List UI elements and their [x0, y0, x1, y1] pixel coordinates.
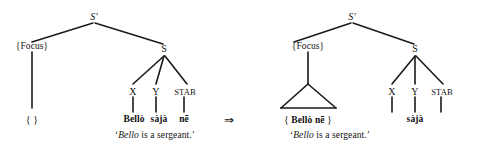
left-node-s: S	[161, 44, 167, 54]
right-focus-open-brace: {	[284, 114, 289, 125]
left-branch-sbar-s	[95, 23, 163, 44]
right-branch-s-stab	[416, 56, 443, 84]
left-branch-s-x	[133, 56, 164, 84]
right-gloss-rest: is a sergeant.	[314, 130, 367, 140]
left-branch-s-y	[156, 56, 164, 84]
left-terminal-x: Bellò	[123, 115, 144, 125]
left-terminal-focus-empty: { }	[26, 115, 38, 125]
right-terminal-y: sàjà	[407, 115, 424, 125]
left-node-focus: {Focus}	[16, 42, 49, 52]
left-gloss: ‘Bello is a sergeant.’	[115, 131, 195, 141]
derivation-arrow-icon: ⇒	[224, 114, 234, 126]
right-triangle-left-edge	[281, 84, 308, 108]
right-focus-phrase: Bellò nē	[291, 115, 324, 125]
right-focus-close-brace: }	[327, 114, 332, 125]
left-terminal-stab: nē	[179, 115, 189, 125]
left-branch-s-stab	[165, 56, 187, 84]
right-gloss: ‘Bello is a sergeant.’	[290, 131, 370, 141]
right-node-s: S	[412, 44, 418, 54]
right-node-sbar: S′	[348, 12, 355, 22]
left-gloss-rest: is a sergeant.	[139, 130, 192, 140]
right-branch-sbar-focus	[294, 23, 351, 42]
left-node-y: Y	[152, 87, 159, 97]
right-gloss-close-quote: ’	[367, 130, 370, 140]
right-triangle-right-edge	[308, 84, 336, 108]
left-node-x: X	[129, 87, 136, 97]
left-gloss-close-quote: ’	[192, 130, 195, 140]
right-node-focus: {Focus}	[292, 42, 325, 52]
right-terminal-focus: { Bellò nē }	[284, 115, 332, 126]
left-branch-sbar-focus	[32, 23, 93, 42]
tree-branch-lines	[0, 0, 477, 152]
right-branch-s-x	[392, 56, 415, 84]
right-branch-sbar-s	[353, 23, 414, 44]
left-terminal-y: sàjà	[151, 115, 168, 125]
left-gloss-italic-word: Bello	[118, 130, 139, 140]
right-node-stab: STAB	[431, 88, 452, 97]
left-node-stab: STAB	[174, 88, 195, 97]
right-gloss-italic-word: Bello	[293, 130, 314, 140]
right-node-y: Y	[411, 87, 418, 97]
right-node-x: X	[388, 87, 395, 97]
figure-canvas: S′ {Focus} S X Y STAB { } Bellò sàjà nē …	[0, 0, 477, 152]
left-node-sbar: S′	[90, 12, 97, 22]
